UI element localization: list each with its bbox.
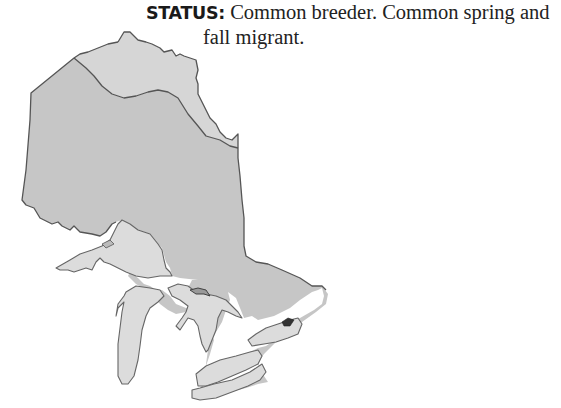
lake-michigan: [116, 286, 164, 384]
lake-ontario: [248, 318, 302, 346]
south-region: [22, 58, 328, 398]
range-map: [0, 0, 561, 408]
